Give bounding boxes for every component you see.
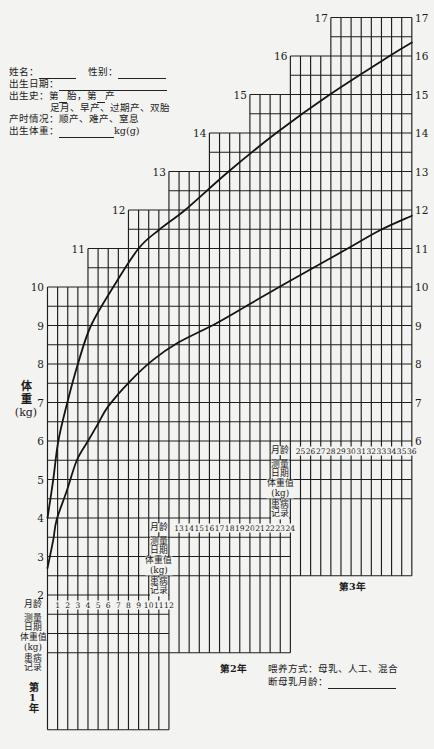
row-label-weight-text: (kg) bbox=[267, 489, 294, 499]
month-age-label: 35 bbox=[396, 446, 407, 455]
y-tick-right: 12 bbox=[415, 204, 428, 216]
month-age-label: 4 bbox=[85, 600, 91, 609]
y-tick-left: 6 bbox=[14, 435, 44, 447]
y-tick-left: 7 bbox=[14, 397, 44, 409]
birth-history-mid: 胎，第 bbox=[67, 90, 97, 101]
month-age-label: 26 bbox=[305, 446, 316, 455]
row-label-weight: 体重值(kg) bbox=[20, 634, 47, 653]
month-age-label: 31 bbox=[356, 446, 367, 455]
y-tick-step: 16 bbox=[257, 50, 287, 62]
row-label-measure-date: 测量日期 bbox=[24, 614, 42, 633]
row-label-month-age-text: 月龄 bbox=[150, 523, 168, 533]
month-age-label: 19 bbox=[234, 523, 245, 532]
month-age-label: 10 bbox=[143, 600, 154, 609]
y-tick-left: 10 bbox=[14, 281, 44, 293]
row-label-illness: 患病记录 bbox=[24, 654, 42, 673]
month-age-label: 1 bbox=[55, 600, 61, 609]
month-age-label: 7 bbox=[115, 600, 121, 609]
month-age-label: 14 bbox=[184, 523, 195, 532]
y-tick-left: 9 bbox=[14, 320, 44, 332]
name-label: 姓名： bbox=[9, 66, 39, 77]
month-age-label: 12 bbox=[164, 600, 175, 609]
month-age-label: 34 bbox=[386, 446, 397, 455]
month-age-label: 11 bbox=[153, 600, 164, 609]
row-label-measure-date: 测量日期 bbox=[150, 537, 168, 556]
y-tick-right: 16 bbox=[415, 50, 428, 62]
month-age-label: 33 bbox=[376, 446, 387, 455]
y-tick-step: 12 bbox=[95, 204, 125, 216]
y-tick-right: 7 bbox=[415, 397, 422, 409]
row-label-month-age-text: 月龄 bbox=[24, 600, 42, 610]
birth-weight-line: 出生体重：kg(g) bbox=[9, 125, 140, 137]
y-tick-step: 15 bbox=[217, 89, 247, 101]
row-label-measure-date: 测量日期 bbox=[271, 460, 289, 479]
month-age-label: 21 bbox=[255, 523, 266, 532]
y-tick-left: 3 bbox=[14, 551, 44, 563]
row-label-month-age: 月龄 bbox=[271, 446, 289, 456]
month-age-label: 29 bbox=[336, 446, 347, 455]
y-tick-right: 15 bbox=[415, 89, 428, 101]
month-age-label: 24 bbox=[285, 523, 296, 532]
y-tick-left: 4 bbox=[14, 512, 44, 524]
y-tick-right: 9 bbox=[415, 320, 422, 332]
month-age-label: 16 bbox=[204, 523, 215, 532]
month-age-label: 36 bbox=[406, 446, 417, 455]
birth-date-line: 出生日期： bbox=[9, 78, 167, 90]
row-label-month-age-text: 月龄 bbox=[271, 446, 289, 456]
month-age-label: 18 bbox=[224, 523, 235, 532]
y-tick-step: 14 bbox=[176, 127, 206, 139]
row-label-illness-text: 记录 bbox=[271, 510, 289, 520]
birth-date-label: 出生日期： bbox=[9, 78, 59, 89]
y-tick-right: 10 bbox=[415, 281, 428, 293]
month-age-label: 30 bbox=[346, 446, 357, 455]
y-tick-right: 11 bbox=[415, 243, 428, 255]
y-tick-right: 17 bbox=[415, 12, 428, 24]
month-age-label: 22 bbox=[265, 523, 276, 532]
month-age-label: 28 bbox=[326, 446, 337, 455]
month-age-label: 20 bbox=[245, 523, 256, 532]
month-age-label: 25 bbox=[295, 446, 306, 455]
month-age-label: 23 bbox=[275, 523, 286, 532]
delivery-options: 顺产、难产、窒息 bbox=[59, 113, 139, 124]
name-sex-line: 姓名：性别： bbox=[9, 66, 166, 78]
delivery-line: 产时情况：顺产、难产、窒息 bbox=[9, 113, 139, 125]
row-label-illness: 患病记录 bbox=[150, 577, 168, 596]
y-tick-step: 17 bbox=[298, 12, 328, 24]
month-age-label: 27 bbox=[315, 446, 326, 455]
birth-history-label: 出生史：第 bbox=[9, 90, 59, 101]
birth-weight-label: 出生体重： bbox=[9, 125, 59, 136]
y-tick-left: 5 bbox=[14, 474, 44, 486]
month-age-label: 32 bbox=[366, 446, 377, 455]
y-tick-right: 14 bbox=[415, 127, 428, 139]
birth-weight-field[interactable] bbox=[59, 128, 114, 138]
row-label-weight-text: (kg) bbox=[20, 643, 47, 653]
row-label-illness-text: 记录 bbox=[24, 664, 42, 674]
month-age-label: 8 bbox=[126, 600, 132, 609]
delivery-label: 产时情况： bbox=[9, 113, 59, 124]
row-label-weight: 体重值(kg) bbox=[145, 557, 172, 576]
month-age-label: 5 bbox=[95, 600, 101, 609]
month-age-label: 17 bbox=[214, 523, 225, 532]
month-age-label: 2 bbox=[65, 600, 71, 609]
month-age-label: 9 bbox=[136, 600, 142, 609]
y-tick-left: 8 bbox=[14, 358, 44, 370]
month-age-label: 3 bbox=[75, 600, 81, 609]
birth-weight-unit: kg(g) bbox=[114, 125, 140, 136]
row-label-weight-text: (kg) bbox=[145, 566, 172, 576]
row-label-month-age: 月龄 bbox=[150, 523, 168, 533]
row-label-weight: 体重值(kg) bbox=[267, 480, 294, 499]
month-age-label: 15 bbox=[194, 523, 205, 532]
y-tick-step: 13 bbox=[136, 166, 166, 178]
y-tick-right: 8 bbox=[415, 358, 422, 370]
sex-label: 性别： bbox=[88, 66, 118, 77]
month-age-label: 6 bbox=[105, 600, 111, 609]
row-label-illness-text: 记录 bbox=[150, 587, 168, 597]
row-label-month-age: 月龄 bbox=[24, 600, 42, 610]
month-age-label: 13 bbox=[174, 523, 185, 532]
y-tick-right: 13 bbox=[415, 166, 428, 178]
birth-history-line: 出生史：第胎，第产 bbox=[9, 90, 115, 102]
y-tick-step: 11 bbox=[55, 243, 85, 255]
row-label-illness: 患病记录 bbox=[271, 500, 289, 519]
birth-history-suffix: 产 bbox=[105, 90, 115, 101]
